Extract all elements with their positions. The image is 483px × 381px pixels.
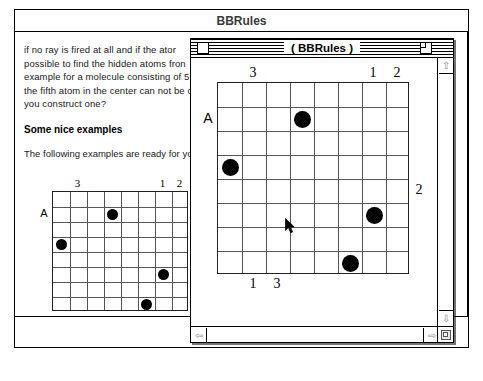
grid-line-horizontal xyxy=(218,131,408,132)
grid-line-vertical xyxy=(104,192,105,310)
board-top-label: 3 xyxy=(69,177,86,189)
scroll-up-glyph: ⇧ xyxy=(442,60,450,71)
grid-line-vertical xyxy=(314,83,315,273)
grid-line-vertical xyxy=(266,83,267,273)
rules-heading: Some nice examples xyxy=(24,124,122,135)
grid-line-horizontal xyxy=(53,297,187,298)
scroll-right-glyph: ⇨ xyxy=(428,330,436,341)
scroll-left-arrow-icon[interactable]: ⇦ xyxy=(191,328,206,342)
grid-line-vertical xyxy=(155,192,156,310)
horizontal-scrollbar[interactable]: ⇦ ⇨ xyxy=(191,326,439,342)
atom[interactable] xyxy=(141,299,152,310)
atom[interactable] xyxy=(56,239,67,250)
atom[interactable] xyxy=(107,209,118,220)
foreground-window-titlebar[interactable]: ( BBRules ) xyxy=(191,39,453,58)
atom[interactable] xyxy=(342,255,359,272)
close-box-icon[interactable] xyxy=(197,42,209,54)
rules-subtext: The following examples are ready for yo xyxy=(24,148,192,159)
background-window-titlebar[interactable]: BBRules xyxy=(15,10,468,32)
grid-line-horizontal xyxy=(218,251,408,252)
horizontal-scroll-track[interactable] xyxy=(206,328,424,342)
scroll-down-glyph: ⇩ xyxy=(442,313,450,324)
vertical-scrollbar[interactable]: ⇧ ⇩ xyxy=(437,58,453,326)
grid-line-vertical xyxy=(386,83,387,273)
grid-line-horizontal xyxy=(53,267,187,268)
grid-line-horizontal xyxy=(53,207,187,208)
scroll-left-glyph: ⇦ xyxy=(195,330,203,341)
grid-line-horizontal xyxy=(218,227,408,228)
board-left-label: A xyxy=(201,110,215,126)
zoom-box-icon[interactable] xyxy=(420,42,432,54)
board-right-label: 2 xyxy=(412,182,426,198)
board-top-label: 3 xyxy=(241,65,265,81)
board-bottom-label: 3 xyxy=(265,276,289,292)
atom[interactable] xyxy=(158,269,169,280)
grid-line-vertical xyxy=(242,83,243,273)
grid-line-vertical xyxy=(138,192,139,310)
board-top-label: 1 xyxy=(154,177,171,189)
foreground-board-grid[interactable] xyxy=(217,82,409,274)
vertical-scroll-track[interactable] xyxy=(439,73,453,311)
background-board-grid xyxy=(52,191,188,311)
atom[interactable] xyxy=(222,159,239,176)
scroll-up-arrow-icon[interactable]: ⇧ xyxy=(439,58,453,73)
grid-line-horizontal xyxy=(53,237,187,238)
background-window-title: BBRules xyxy=(216,14,266,28)
board-left-label: A xyxy=(38,207,50,219)
grid-line-horizontal xyxy=(218,203,408,204)
grid-line-horizontal xyxy=(218,107,408,108)
grid-line-vertical xyxy=(121,192,122,310)
grid-line-horizontal xyxy=(53,222,187,223)
board-top-label: 2 xyxy=(385,65,409,81)
grid-line-horizontal xyxy=(218,179,408,180)
grid-line-vertical xyxy=(70,192,71,310)
grid-line-vertical xyxy=(362,83,363,273)
board-top-label: 1 xyxy=(361,65,385,81)
grow-box-icon[interactable] xyxy=(437,326,453,342)
grid-line-horizontal xyxy=(53,252,187,253)
foreground-window[interactable]: ( BBRules ) 31213A2 ⇧ ⇩ ⇦ ⇨ xyxy=(190,38,454,343)
screen: BBRules if no ray is fired at all and if… xyxy=(0,0,483,381)
grid-line-vertical xyxy=(290,83,291,273)
grid-line-horizontal xyxy=(218,155,408,156)
grid-line-horizontal xyxy=(53,282,187,283)
atom[interactable] xyxy=(294,111,311,128)
grid-line-vertical xyxy=(172,192,173,310)
board-bottom-label: 1 xyxy=(241,276,265,292)
atom[interactable] xyxy=(366,207,383,224)
foreground-window-title: ( BBRules ) xyxy=(284,42,360,54)
foreground-window-content: 31213A2 xyxy=(191,58,438,326)
grow-glyph xyxy=(441,330,451,340)
grid-line-vertical xyxy=(338,83,339,273)
board-top-label: 2 xyxy=(171,177,188,189)
grid-line-vertical xyxy=(87,192,88,310)
scroll-down-arrow-icon[interactable]: ⇩ xyxy=(439,311,453,326)
